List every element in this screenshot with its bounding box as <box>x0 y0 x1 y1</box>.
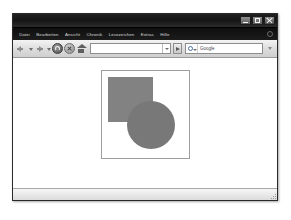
resize-grip-icon[interactable] <box>269 192 276 199</box>
menu-bar: Datei Bearbeiten Ansicht Chronik Lesezei… <box>13 28 277 40</box>
navigation-toolbar: Google <box>13 40 277 58</box>
google-search-icon[interactable] <box>186 44 198 53</box>
status-bar <box>13 188 277 200</box>
help-circle-icon[interactable] <box>267 31 273 37</box>
browser-window: Datei Bearbeiten Ansicht Chronik Lesezei… <box>12 13 278 201</box>
url-dropdown-icon[interactable] <box>162 44 170 53</box>
maximize-button[interactable] <box>252 16 263 25</box>
minimize-button[interactable] <box>240 16 251 25</box>
menu-item-extras[interactable]: Extras <box>138 32 157 37</box>
search-bar[interactable]: Google <box>185 43 263 54</box>
forward-dropdown-icon[interactable] <box>46 43 51 54</box>
menu-item-ansicht[interactable]: Ansicht <box>62 32 83 37</box>
gray-circle-shape <box>127 101 175 149</box>
back-icon[interactable] <box>16 43 27 54</box>
menu-item-hilfe[interactable]: Hilfe <box>157 32 173 37</box>
stop-icon[interactable] <box>64 43 75 54</box>
page-content <box>13 58 277 188</box>
forward-icon[interactable] <box>34 43 45 54</box>
back-dropdown-icon[interactable] <box>28 43 33 54</box>
url-bar[interactable] <box>90 43 171 54</box>
search-input[interactable]: Google <box>198 46 262 51</box>
title-bar[interactable] <box>13 14 277 28</box>
toolbar-overflow-icon[interactable] <box>266 43 274 54</box>
menu-item-bearbeiten[interactable]: Bearbeiten <box>33 32 62 37</box>
menu-item-datei[interactable]: Datei <box>16 32 33 37</box>
reload-icon[interactable] <box>52 43 63 54</box>
close-button[interactable] <box>264 16 275 25</box>
menu-item-chronik[interactable]: Chronik <box>83 32 105 37</box>
menu-item-lesezeichen[interactable]: Lesezeichen <box>105 32 137 37</box>
shape-canvas <box>101 70 190 159</box>
home-icon[interactable] <box>76 43 87 54</box>
screen-root: Datei Bearbeiten Ansicht Chronik Lesezei… <box>0 0 291 220</box>
go-button[interactable] <box>173 43 182 54</box>
